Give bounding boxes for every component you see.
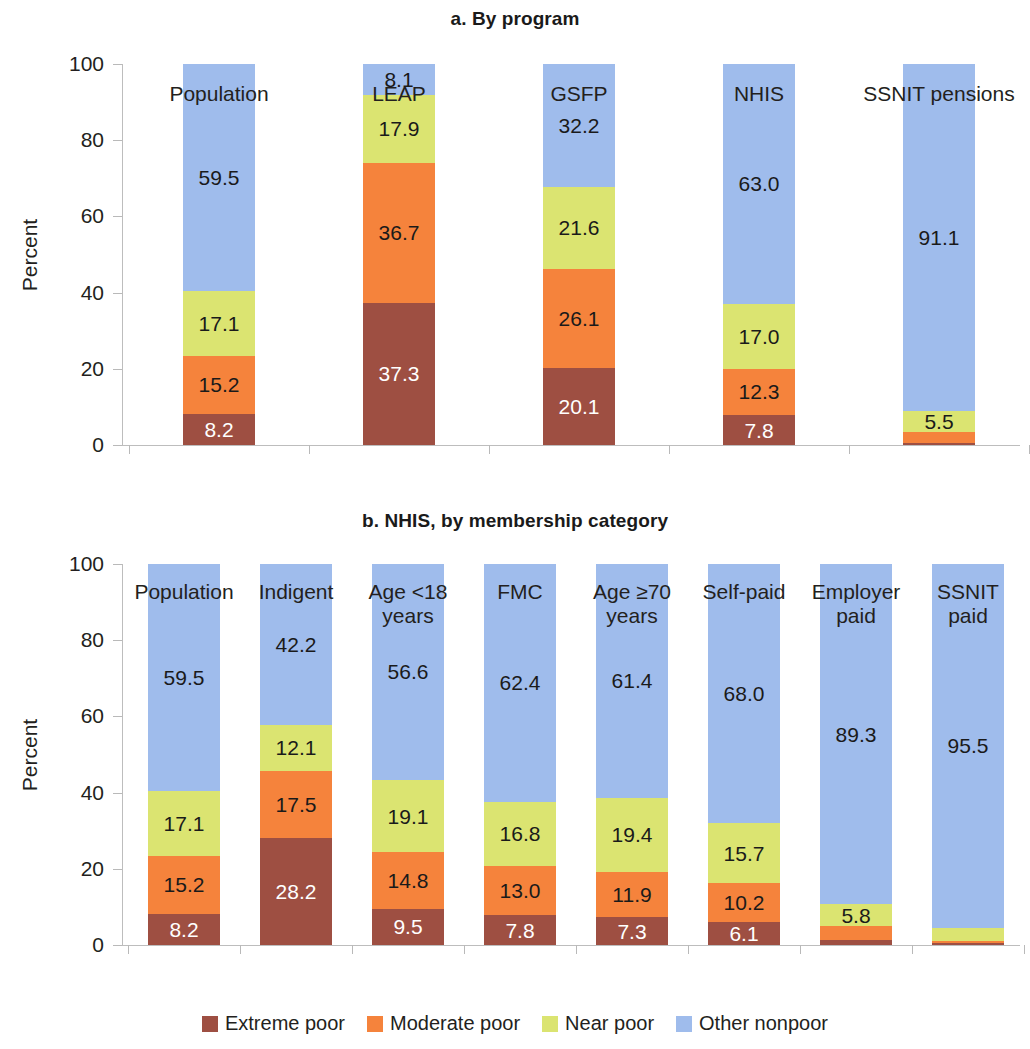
chart-a-bar-segment[interactable]: 17.0 [723,304,795,369]
chart-b-y-tick-mark [113,640,122,641]
chart-b-x-axis-label-line: paid [892,604,1030,628]
chart-b-bar-segment[interactable]: 13.0 [484,866,556,916]
chart-a-bar-segment[interactable]: 7.8 [723,415,795,445]
chart-a-bar-value-label: 91.1 [919,227,960,248]
chart-a-bar-value-label: 63.0 [739,173,780,194]
chart-a-bar-segment[interactable]: 21.6 [543,187,615,269]
chart-legend: Extreme poorModerate poorNear poorOther … [0,1012,1030,1035]
chart-b-bar-segment[interactable]: 8.2 [148,914,220,945]
chart-b-bar-segment[interactable]: 15.2 [148,856,220,914]
chart-b-bar-value-label: 56.6 [388,661,429,682]
chart-b-x-axis-label-line: years [556,604,708,628]
chart-a-bar-segment[interactable]: 17.1 [183,291,255,356]
chart-a-bar-segment[interactable]: 5.5 [903,411,975,432]
chart-a-bar-segment[interactable]: 20.1 [543,368,615,445]
chart-b-bar-segment[interactable]: 14.8 [372,852,444,908]
chart-b-bar-segment[interactable]: 7.3 [596,917,668,945]
chart-b-bar-segment[interactable]: 19.4 [596,798,668,872]
chart-a-bar-segment[interactable] [903,443,975,445]
chart-b-bar-value-label: 89.3 [836,724,877,745]
chart-a-y-tick-mark [113,140,122,141]
chart-a-bar-value-label: 21.6 [559,217,600,238]
chart-a-bar-segment[interactable]: 37.3 [363,303,435,445]
chart-b-bar-segment[interactable]: 12.1 [260,725,332,771]
chart-b-bar-segment[interactable]: 7.8 [484,915,556,945]
chart-a-bar[interactable]: 7.812.317.063.0 [723,64,795,445]
chart-b-bar-segment[interactable]: 6.1 [708,922,780,945]
chart-b-x-axis-label-line: Population [134,580,233,603]
chart-a-x-tick-mark [849,445,850,454]
legend-item[interactable]: Extreme poor [202,1012,345,1035]
chart-a-bar-value-label: 17.0 [739,326,780,347]
chart-b-bar-segment[interactable]: 10.2 [708,883,780,922]
chart-b-bar-segment[interactable]: 9.5 [372,909,444,945]
chart-b-bar-segment[interactable]: 5.8 [820,904,892,926]
chart-b-bar-value-label: 28.2 [276,881,317,902]
chart-a-bar-segment[interactable]: 12.3 [723,369,795,416]
chart-b-bar-segment[interactable]: 11.9 [596,872,668,917]
chart-b-y-tick-mark [113,564,122,565]
chart-b-bar-segment[interactable]: 17.5 [260,771,332,838]
chart-a-y-axis-line [122,64,123,445]
chart-a-x-axis-label: SSNIT pensions [829,82,1030,106]
chart-a-bar[interactable]: 20.126.121.632.2 [543,64,615,445]
legend-item[interactable]: Moderate poor [367,1012,520,1035]
chart-b-bar-value-label: 8.2 [169,919,198,940]
chart-b-bar-segment[interactable]: 17.1 [148,791,220,856]
chart-b-bar-segment[interactable] [932,928,1004,941]
chart-a-bar-segment[interactable]: 8.2 [183,414,255,445]
chart-a-bar[interactable]: 5.591.1 [903,64,975,445]
chart-a-bar-segment[interactable]: 36.7 [363,163,435,303]
chart-a-y-tick-mark [113,216,122,217]
chart-b-bar-segment[interactable]: 28.2 [260,838,332,945]
chart-b-bar[interactable]: 28.217.512.142.2 [260,564,332,945]
chart-b-y-axis-title: Percent [18,718,42,790]
chart-a-bar-segment[interactable]: 91.1 [903,64,975,411]
chart-b-bar-segment[interactable] [932,941,1004,943]
chart-a-bar[interactable]: 8.215.217.159.5 [183,64,255,445]
chart-b-bar[interactable]: 7.813.016.862.4 [484,564,556,945]
chart-a-x-axis-label-line: Population [169,82,268,105]
chart-a-bar[interactable]: 37.336.717.98.1 [363,64,435,445]
chart-b-bar-value-label: 59.5 [164,667,205,688]
legend-swatch-icon [202,1016,218,1032]
chart-b-bar[interactable]: 8.215.217.159.5 [148,564,220,945]
chart-b-y-tick-mark [113,793,122,794]
chart-b-bar-segment[interactable]: 19.1 [372,780,444,853]
chart-b-title: b. NHIS, by membership category [0,510,1030,532]
chart-b-bar-segment[interactable] [820,940,892,945]
chart-a-bar-segment[interactable] [903,432,975,443]
chart-b-x-tick-mark [1024,945,1025,954]
chart-b-bar-value-label: 16.8 [500,823,541,844]
chart-b-x-axis-label-line: Age ≥70 [593,580,671,603]
chart-a-bar-segment[interactable]: 26.1 [543,269,615,368]
chart-a-x-tick-mark [309,445,310,454]
chart-a-bar-value-label: 12.3 [739,381,780,402]
chart-panel-a: a. By program Percent 0204060801008.215.… [0,0,1030,500]
legend-label: Near poor [565,1012,654,1035]
chart-a-bar-value-label: 17.9 [379,118,420,139]
chart-b-bar-segment[interactable] [820,926,892,940]
chart-a-y-tick-mark [113,369,122,370]
chart-a-bar-value-label: 5.5 [924,411,953,432]
chart-b-bar-value-label: 68.0 [724,683,765,704]
chart-b-x-tick-mark [464,945,465,954]
chart-b-bar[interactable]: 6.110.215.768.0 [708,564,780,945]
chart-a-plot-area: Percent 0204060801008.215.217.159.5Popul… [122,64,1020,445]
chart-b-bar-segment[interactable] [932,943,1004,945]
chart-a-bar-segment[interactable]: 15.2 [183,356,255,414]
chart-b-y-tick-label: 80 [81,628,104,652]
chart-b-bar-value-label: 17.5 [276,794,317,815]
chart-a-x-axis-label-line: NHIS [734,82,784,105]
chart-a-y-tick-label: 80 [81,128,104,152]
legend-item[interactable]: Near poor [542,1012,654,1035]
chart-b-x-axis-label: SSNITpaid [892,580,1030,627]
chart-b-bar-value-label: 7.3 [617,921,646,942]
chart-b-bar-segment[interactable]: 15.7 [708,823,780,883]
chart-b-y-tick-label: 100 [69,552,104,576]
legend-item[interactable]: Other nonpoor [676,1012,828,1035]
chart-a-bar-value-label: 26.1 [559,308,600,329]
chart-b-bar-segment[interactable]: 16.8 [484,802,556,866]
legend-swatch-icon [542,1016,558,1032]
chart-b-bar-value-label: 14.8 [388,870,429,891]
